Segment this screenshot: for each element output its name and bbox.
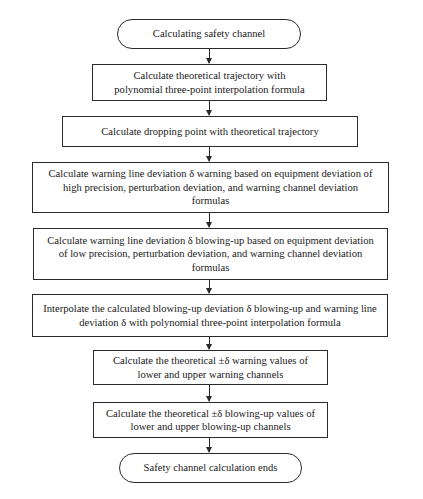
arrow-step6-to-step7 xyxy=(209,385,210,401)
arrow-step3-to-step4 xyxy=(209,213,210,227)
end-label: Safety channel calculation ends xyxy=(144,461,278,474)
arrow-step4-to-step5 xyxy=(209,280,210,293)
arrow-step1-to-step2 xyxy=(209,101,210,115)
start-label: Calculating safety channel xyxy=(153,27,265,40)
step-theoretical-trajectory: Calculate theoretical trajectory with po… xyxy=(92,64,327,101)
step-2-label: Calculate dropping point with theoretica… xyxy=(101,125,318,138)
step-dropping-point: Calculate dropping point with theoretica… xyxy=(62,116,358,147)
step-warning-deviation: Calculate warning line deviation δ warni… xyxy=(32,162,389,213)
step-6-label: Calculate the theoretical ±δ warning val… xyxy=(110,354,311,381)
step-7-label: Calculate the theoretical ±δ blowing-up … xyxy=(98,407,323,434)
step-blowing-up-deviation: Calculate warning line deviation δ blowi… xyxy=(33,228,388,280)
step-1-label: Calculate theoretical trajectory with po… xyxy=(114,69,304,96)
step-5-label: Interpolate the calculated blowing-up de… xyxy=(37,302,383,329)
step-interpolate-deviations: Interpolate the calculated blowing-up de… xyxy=(32,294,388,337)
start-terminal: Calculating safety channel xyxy=(117,19,301,49)
step-warning-channel-values: Calculate the theoretical ±δ warning val… xyxy=(93,350,328,385)
step-blowing-up-channel-values: Calculate the theoretical ±δ blowing-up … xyxy=(93,402,328,438)
arrow-start-to-step1 xyxy=(209,49,210,63)
step-3-label: Calculate warning line deviation δ warni… xyxy=(47,167,374,207)
arrow-step5-to-step6 xyxy=(209,337,210,349)
arrow-step7-to-end xyxy=(209,438,210,452)
end-terminal: Safety channel calculation ends xyxy=(119,453,302,483)
step-4-label: Calculate warning line deviation δ blowi… xyxy=(44,234,377,274)
arrow-step2-to-step3 xyxy=(209,147,210,161)
